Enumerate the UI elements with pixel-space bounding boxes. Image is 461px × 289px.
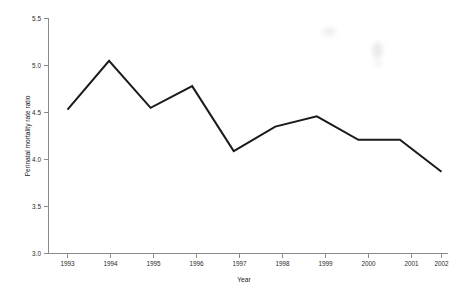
x-tick-label: 2002 bbox=[434, 260, 449, 267]
x-tick-label: 1996 bbox=[189, 260, 204, 267]
x-tick-label: 2001 bbox=[404, 260, 419, 267]
x-tick-label: 2000 bbox=[361, 260, 376, 267]
data-series-line bbox=[68, 61, 442, 172]
x-tick-label: 1997 bbox=[232, 260, 247, 267]
x-tick-label: 1998 bbox=[275, 260, 290, 267]
y-tick-label: 5.5 bbox=[32, 15, 41, 22]
x-tick-label: 1993 bbox=[60, 260, 75, 267]
y-tick-label: 5.0 bbox=[32, 62, 41, 69]
line-chart-plot: 5.5 5.0 4.5 4.0 3.5 3.0 Perinatal mortal… bbox=[0, 0, 461, 289]
x-axis-title: Year bbox=[237, 276, 251, 283]
y-tick-label: 3.5 bbox=[32, 203, 41, 210]
x-tick-label: 1999 bbox=[318, 260, 333, 267]
y-axis: 5.5 5.0 4.5 4.0 3.5 3.0 Perinatal mortal… bbox=[24, 15, 49, 257]
y-tick-label: 4.5 bbox=[32, 109, 41, 116]
chart-container: 5.5 5.0 4.5 4.0 3.5 3.0 Perinatal mortal… bbox=[0, 0, 461, 289]
x-tick-label: 1994 bbox=[103, 260, 118, 267]
y-tick-label: 4.0 bbox=[32, 156, 41, 163]
x-axis: 1993 1994 1995 1996 1997 1998 1999 2000 … bbox=[49, 254, 450, 284]
y-axis-title: Perinatal mortality rate ratio bbox=[24, 95, 32, 176]
x-tick-label: 1995 bbox=[146, 260, 161, 267]
y-tick-label: 3.0 bbox=[32, 250, 41, 257]
